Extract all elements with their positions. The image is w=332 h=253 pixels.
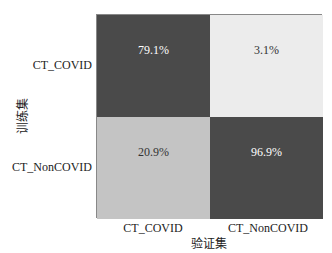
- y-axis-title: 训练集: [13, 98, 31, 134]
- cell-noncovid-covid: 20.9%: [97, 117, 210, 219]
- x-tick-ct-covid: CT_COVID: [123, 221, 182, 236]
- cell-covid-covid: 79.1%: [97, 15, 210, 117]
- y-tick-ct-noncovid: CT_NonCOVID: [12, 160, 92, 175]
- cell-noncovid-noncovid: 96.9%: [210, 117, 323, 219]
- y-tick-ct-covid: CT_COVID: [33, 58, 92, 73]
- confusion-matrix: 79.1% 3.1% 20.9% 96.9%: [96, 14, 322, 218]
- cell-value: 20.9%: [138, 145, 169, 160]
- cell-covid-noncovid: 3.1%: [210, 15, 323, 117]
- x-axis-title: 验证集: [191, 234, 227, 252]
- cell-value: 96.9%: [251, 145, 282, 160]
- cell-value: 79.1%: [138, 43, 169, 58]
- cell-value: 3.1%: [254, 43, 279, 58]
- x-tick-ct-noncovid: CT_NonCOVID: [228, 221, 308, 236]
